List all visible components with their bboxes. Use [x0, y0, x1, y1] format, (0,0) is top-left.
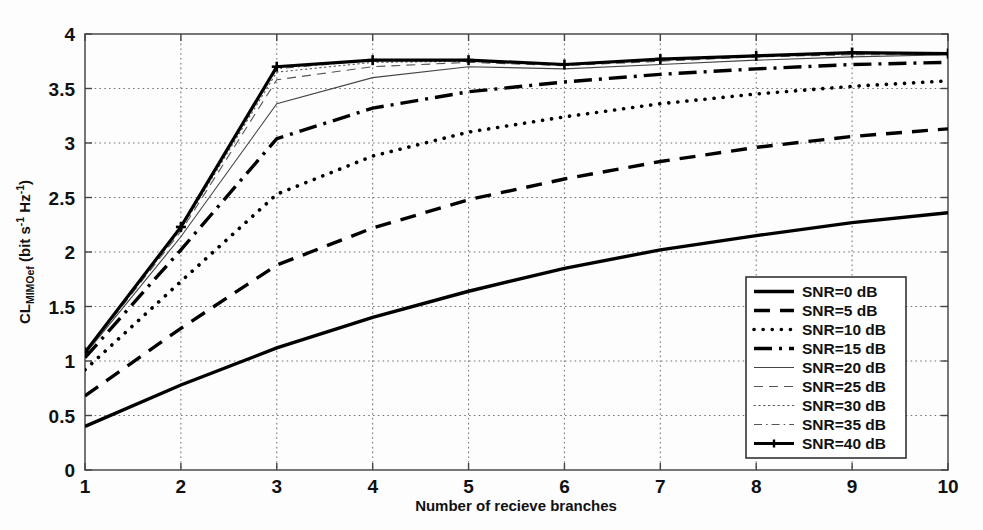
y-axis-title-sup2: -1 [14, 185, 26, 194]
y-tick-label: 3.5 [49, 79, 76, 100]
x-tick-label: 6 [559, 476, 570, 497]
x-axis-title: Number of recieve branches [415, 497, 617, 514]
line-chart-svg: 1234567891000.511.522.533.54 Number of r… [0, 0, 983, 530]
x-tick-label: 7 [655, 476, 666, 497]
legend-label-snr-5-db: SNR=5 dB [802, 302, 877, 319]
x-tick-label: 5 [463, 476, 474, 497]
legend-label-snr-35-db: SNR=35 dB [802, 416, 886, 433]
legend-label-snr-30-db: SNR=30 dB [802, 397, 886, 414]
y-tick-label: 0 [64, 460, 75, 481]
y-axis-title-main2: (bit s [16, 226, 33, 266]
legend-label-snr-20-db: SNR=20 dB [802, 359, 886, 376]
chart-legend[interactable]: SNR=0 dBSNR=5 dBSNR=10 dBSNR=15 dBSNR=20… [746, 277, 906, 458]
y-tick-label: 1 [64, 351, 75, 372]
legend-label-snr-25-db: SNR=25 dB [802, 378, 886, 395]
y-tick-label: 0.5 [49, 406, 76, 427]
x-tick-label: 2 [176, 476, 187, 497]
x-tick-label: 10 [937, 476, 958, 497]
x-tick-label: 3 [271, 476, 282, 497]
y-tick-label: 1.5 [49, 297, 76, 318]
y-axis-title-sub: MIMOef [24, 266, 36, 304]
legend-label-snr-40-db: SNR=40 dB [802, 435, 886, 452]
y-axis-title-main1: CL [16, 304, 33, 324]
x-tick-label: 8 [751, 476, 762, 497]
y-axis-title-sup1: -1 [14, 217, 26, 226]
y-axis-title-main4: ) [16, 180, 33, 185]
y-tick-label: 4 [64, 24, 75, 45]
legend-label-snr-10-db: SNR=10 dB [802, 321, 886, 338]
chart-figure: 1234567891000.511.522.533.54 Number of r… [0, 0, 983, 530]
x-tick-label: 4 [367, 476, 378, 497]
y-tick-label: 3 [64, 133, 75, 154]
x-tick-label: 1 [80, 476, 91, 497]
y-axis-title-main3: Hz [16, 194, 33, 217]
x-tick-label: 9 [847, 476, 858, 497]
legend-label-snr-15-db: SNR=15 dB [802, 340, 886, 357]
y-tick-label: 2 [64, 242, 75, 263]
y-tick-label: 2.5 [49, 188, 76, 209]
legend-label-snr-0-db: SNR=0 dB [802, 283, 877, 300]
